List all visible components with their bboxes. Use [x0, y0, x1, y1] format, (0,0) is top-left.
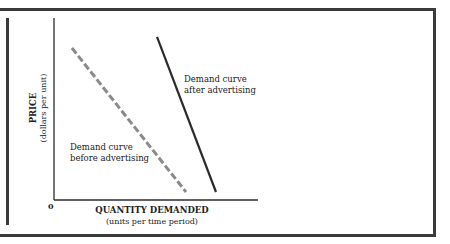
x-axis-subtitle: (units per time period)	[106, 217, 198, 226]
origin-label: 0	[48, 201, 54, 211]
label-before-line-2: before advertising	[70, 153, 150, 163]
x-axis-title: QUANTITY DEMANDED	[95, 205, 209, 215]
label-after-line-2: after advertising	[184, 85, 257, 95]
label-before-line-1: Demand curve	[70, 142, 133, 152]
demand-chart: 0 QUANTITY DEMANDED (units per time peri…	[0, 0, 450, 244]
y-axis-subtitle: (dollars per unit)	[39, 74, 48, 143]
y-axis-title: PRICE	[28, 92, 38, 123]
label-after-line-1: Demand curve	[184, 74, 247, 84]
